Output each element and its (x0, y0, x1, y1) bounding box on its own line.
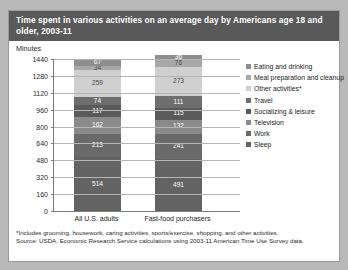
legend-item[interactable]: Sleep (246, 141, 346, 149)
gridline-320 (54, 177, 240, 178)
legend-item[interactable]: Socializing & leisure (246, 108, 346, 116)
legend-swatch-icon (246, 98, 251, 103)
stacked-bar-all-us-adults[interactable]: 673425974117162213514 (74, 59, 121, 211)
y-axis-tick-1120: 1120 (33, 89, 48, 96)
y-axis-tick-800: 800 (36, 123, 48, 130)
bar-segment-value: 76 (175, 60, 182, 67)
legend-label: Meal preparation and cleanup (254, 74, 344, 82)
y-axis-tick-320: 320 (36, 174, 48, 181)
bar-segment-value: 514 (92, 181, 103, 188)
bar-segment[interactable]: 76 (155, 59, 202, 67)
y-tick-mark-480 (51, 160, 54, 161)
gridline-640 (54, 143, 240, 144)
legend-label: Socializing & leisure (254, 108, 315, 116)
bar-segment[interactable]: 273 (155, 67, 202, 96)
bar-segment[interactable]: 514 (74, 157, 121, 211)
legend-label: Eating and drinking (254, 63, 312, 71)
legend-label: Travel (254, 97, 273, 105)
y-tick-mark-1440 (51, 59, 54, 60)
legend-item[interactable]: Travel (246, 97, 346, 105)
stacked-bar-fast-food-purchasers[interactable]: 3676273111115132241491 (155, 55, 202, 211)
legend-swatch-icon (246, 64, 251, 69)
legend-item[interactable]: Television (246, 119, 346, 127)
plot-grid: 673425974117162213514 367627311111513224… (53, 59, 240, 212)
legend-label: Sleep (254, 141, 271, 149)
y-tick-mark-960 (51, 110, 54, 111)
y-tick-mark-1120 (51, 93, 54, 94)
legend-label: Television (254, 119, 284, 127)
bar-segment[interactable]: 67 (74, 59, 121, 66)
x-axis-label-1: Fast-food purchasers (133, 215, 223, 222)
gridline-1440 (54, 59, 240, 60)
chart-card: Time spent in various activities on an a… (8, 10, 340, 262)
y-axis-tick-640: 640 (36, 140, 48, 147)
bar-segment[interactable]: 241 (155, 134, 202, 159)
bar-segment-value: 111 (173, 99, 183, 106)
bar-segment[interactable]: 117 (74, 105, 121, 117)
legend-swatch-icon (246, 120, 251, 125)
y-axis-tick-960: 960 (36, 106, 48, 113)
bar-segment[interactable]: 111 (155, 96, 202, 108)
y-axis-tick-1280: 1280 (32, 72, 48, 79)
bar-segment[interactable]: 491 (155, 159, 202, 211)
legend-item[interactable]: Meal preparation and cleanup (246, 74, 346, 82)
legend-item[interactable]: Work (246, 130, 346, 138)
legend-swatch-icon (246, 86, 251, 91)
bar-segment-value: 115 (173, 110, 184, 117)
gridline-160 (54, 194, 240, 195)
gridline-480 (54, 160, 240, 161)
legend-item[interactable]: Eating and drinking (246, 63, 346, 71)
y-axis: 0160320480640800960112012801440 (9, 59, 53, 211)
y-tick-mark-0 (51, 211, 54, 212)
legend-label: Work (254, 130, 270, 138)
y-axis-tick-160: 160 (36, 191, 48, 198)
bar-segment-value: 74 (94, 98, 101, 105)
y-axis-units-label: Minutes (9, 41, 339, 53)
bar-segment-value: 273 (173, 78, 184, 85)
legend-swatch-icon (246, 142, 251, 147)
bar-segment[interactable]: 213 (74, 134, 121, 156)
gridline-1280 (54, 76, 240, 77)
x-axis-label-0: All U.S. adults (52, 215, 142, 222)
footnote-line-2: Source: USDA, Economic Research Service … (16, 237, 334, 245)
y-tick-mark-320 (51, 177, 54, 178)
legend-swatch-icon (246, 75, 251, 80)
y-tick-mark-1280 (51, 76, 54, 77)
y-tick-mark-160 (51, 194, 54, 195)
bar-segment-value: 491 (173, 182, 184, 189)
y-axis-tick-480: 480 (36, 157, 48, 164)
y-tick-mark-800 (51, 127, 54, 128)
legend-item[interactable]: Other activities* (246, 85, 346, 93)
footnote: *Includes grooming, housework, caring ac… (16, 229, 334, 245)
gridline-960 (54, 110, 240, 111)
y-tick-mark-640 (51, 143, 54, 144)
chart-legend: Eating and drinkingMeal preparation and … (246, 63, 346, 153)
bar-segment[interactable]: 74 (74, 97, 121, 105)
footnote-line-1: *Includes grooming, housework, caring ac… (16, 229, 334, 237)
chart-title: Time spent in various activities on an a… (9, 11, 339, 41)
bar-segment-value: 259 (92, 80, 103, 87)
y-axis-tick-0: 0 (44, 208, 48, 215)
legend-swatch-icon (246, 109, 251, 114)
legend-label: Other activities* (254, 85, 302, 93)
y-axis-tick-1440: 1440 (32, 56, 48, 63)
bar-segment-value: 67 (94, 59, 101, 66)
gridline-1120 (54, 93, 240, 94)
legend-swatch-icon (246, 131, 251, 136)
gridline-800 (54, 127, 240, 128)
